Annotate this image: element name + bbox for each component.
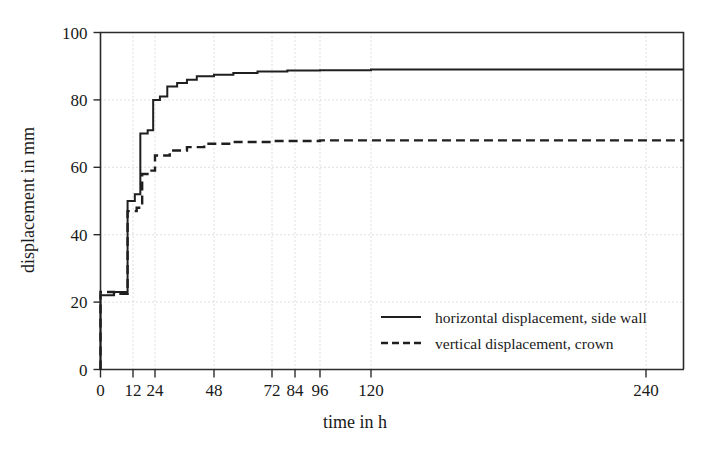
y-tick-label: 100 (62, 24, 88, 43)
legend-label: horizontal displacement, side wall (435, 309, 647, 326)
y-tick-label: 80 (71, 91, 88, 110)
y-tick-label: 20 (71, 293, 88, 312)
chart-figure: 020406080100 0122448728496120240 time in… (0, 0, 711, 452)
chart-background (0, 0, 711, 452)
y-tick-label: 40 (71, 226, 88, 245)
y-axis-title: displacement in mm (18, 127, 38, 273)
x-tick-label: 240 (633, 381, 659, 400)
x-tick-label: 0 (96, 381, 105, 400)
x-axis-title: time in h (323, 412, 387, 432)
x-tick-label: 120 (358, 381, 384, 400)
x-tick-label: 12 (125, 381, 142, 400)
y-tick-label: 60 (71, 158, 88, 177)
x-tick-label: 84 (287, 381, 305, 400)
displacement-vs-time-line-chart: 020406080100 0122448728496120240 time in… (0, 0, 711, 452)
legend-label: vertical displacement, crown (435, 335, 614, 352)
x-tick-label: 96 (312, 381, 329, 400)
y-tick-label: 0 (79, 361, 88, 380)
x-tick-label: 48 (206, 381, 223, 400)
x-tick-label: 72 (264, 381, 281, 400)
x-tick-label: 24 (147, 381, 165, 400)
